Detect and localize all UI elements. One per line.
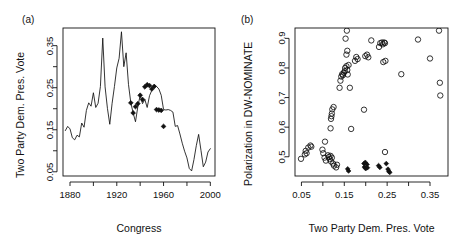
- figure-root: (a) Two Party Dem. Pres. Vote Congress 1…: [0, 0, 457, 244]
- panel-a-plot: [0, 0, 228, 244]
- panel-b-ytick-label: 0.9: [275, 12, 289, 65]
- panel-a: (a) Two Party Dem. Pres. Vote Congress 1…: [0, 0, 228, 244]
- panel-b: (b) Polarization in DW-NOMINATE Two Part…: [229, 0, 457, 244]
- panel-b-xtick-label: 0.35: [421, 189, 440, 200]
- panel-a-xtick-label: 2000: [200, 189, 221, 200]
- panel-a-xtick-label: 1960: [153, 189, 174, 200]
- panel-a-xtick-label: 1880: [59, 189, 80, 200]
- panel-b-xtick-label: 0.25: [378, 189, 397, 200]
- panel-b-xtick-label: 0.15: [335, 189, 354, 200]
- panel-a-xtick-label: 1920: [106, 189, 127, 200]
- panel-b-xtick-label: 0.05: [292, 189, 311, 200]
- panel-a-ytick-label: 0.35: [43, 21, 57, 71]
- panel-b-plot: [229, 0, 457, 244]
